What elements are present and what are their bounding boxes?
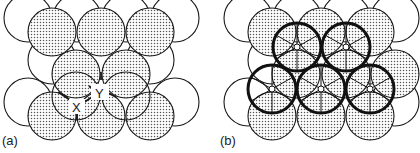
close-packed-layers-diagram-a: Y X [0,0,210,153]
close-packed-layers-diagram-b [210,0,420,153]
panel-label-b: (b) [220,133,236,148]
panel-label-a: (a) [2,133,18,148]
point-label-x: X [72,100,81,115]
point-label-y: Y [95,86,104,101]
panel-a: Y X (a) [0,0,210,153]
panel-b: (b) [210,0,420,153]
